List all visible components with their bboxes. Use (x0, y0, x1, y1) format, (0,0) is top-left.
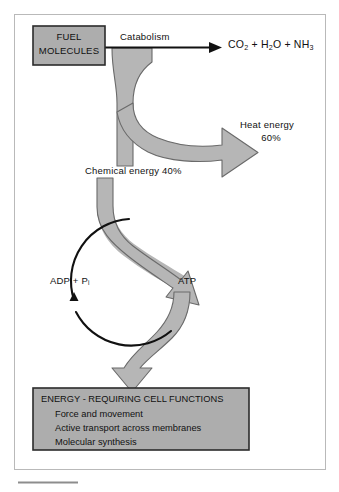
fuel-box-line2: MOLECULES (33, 45, 105, 56)
chemical-energy-label: Chemical energy 40% (85, 165, 182, 176)
functions-box-item-1: Active transport across membranes (55, 423, 201, 433)
product-nh3-subscript: 3 (309, 44, 313, 52)
functions-box-item-0: Force and movement (55, 409, 143, 419)
product-plus-2: + (284, 38, 290, 50)
catabolism-products: CO2 + H2O + NH3 (228, 38, 314, 52)
adp-label-text: ADP + P (50, 275, 88, 286)
figure-container: FUEL MOLECULES Catabolism CO2 + H2O + NH… (0, 0, 339, 492)
product-h2o: H (261, 38, 269, 50)
heat-energy-label-line1: Heat energy (240, 119, 294, 130)
functions-box-heading: ENERGY - REQUIRING CELL FUNCTIONS (41, 394, 223, 404)
product-nh3: NH (294, 38, 310, 50)
diagram-canvas (0, 0, 339, 492)
heat-energy-label-line2: 60% (240, 132, 302, 143)
product-co2-subscript: 2 (244, 44, 248, 52)
product-co2: CO (228, 38, 244, 50)
product-h2o-tail: O (273, 38, 281, 50)
atp-label: ATP (178, 275, 196, 286)
functions-box-item-2: Molecular synthesis (55, 437, 137, 447)
catabolism-label: Catabolism (120, 31, 170, 42)
fuel-box-line1: FUEL (33, 31, 105, 42)
adp-label-subscript: i (88, 279, 90, 286)
product-plus-1: + (251, 38, 257, 50)
adp-label: ADP + Pi (50, 275, 90, 286)
